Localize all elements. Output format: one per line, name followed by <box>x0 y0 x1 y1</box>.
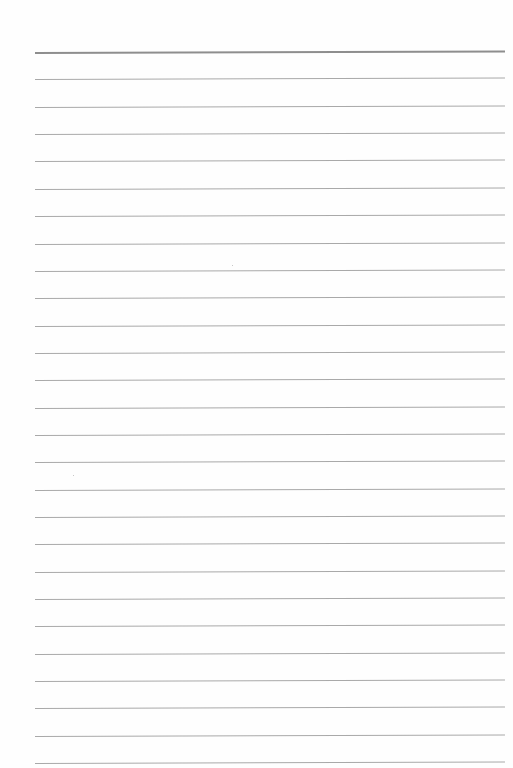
rule-line <box>35 133 505 135</box>
rule-line <box>35 269 505 271</box>
rule-line <box>35 461 505 463</box>
rule-line <box>35 242 505 244</box>
rule-line <box>35 78 505 80</box>
rule-line <box>35 351 505 353</box>
rule-line <box>35 160 505 162</box>
rule-line <box>35 488 505 490</box>
rule-line <box>35 680 505 682</box>
rule-line <box>35 625 505 627</box>
rule-line <box>35 433 505 435</box>
rule-line <box>35 598 505 600</box>
rule-line <box>35 187 505 189</box>
rule-line <box>35 570 505 572</box>
rule-line <box>35 324 505 326</box>
lined-paper-page <box>0 0 513 768</box>
rule-line <box>35 652 505 654</box>
paper-speck <box>73 475 74 476</box>
rule-line <box>35 762 505 764</box>
rule-line <box>35 105 505 107</box>
rule-line <box>35 516 505 518</box>
rule-line <box>35 215 505 217</box>
header-rule-line <box>35 51 505 54</box>
rule-line <box>35 297 505 299</box>
rule-line <box>35 406 505 408</box>
rule-line <box>35 707 505 709</box>
rule-line <box>35 734 505 736</box>
rule-line <box>35 543 505 545</box>
rule-line <box>35 379 505 381</box>
paper-speck <box>232 265 233 266</box>
